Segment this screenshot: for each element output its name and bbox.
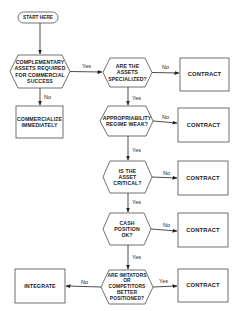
edge-label-q6-no: No <box>81 279 88 285</box>
q4-label: IS THE ASSET CRITICAL? <box>110 161 145 193</box>
edge-label-q2-yes: Yes <box>132 95 141 101</box>
edge-label-q5-no: No <box>163 222 170 228</box>
q3-label: APPROPRIABILITY REGIME WEAK? <box>105 106 149 136</box>
arrow-q3-no <box>153 121 177 123</box>
contract-label-4: CONTRACT <box>178 213 228 247</box>
arrow-q6-yes <box>153 286 177 287</box>
edge-label-q3-yes: Yes <box>132 147 141 153</box>
integrate-label: INTEGRATE <box>15 269 65 303</box>
edge-label-q6-yes: Yes <box>159 278 168 284</box>
contract-label-1: CONTRACT <box>180 58 229 91</box>
q5-label: CASH POSITION OK? <box>112 213 142 245</box>
edge-label-q3-no: No <box>162 114 169 120</box>
flowchart-canvas <box>0 0 237 311</box>
q1-label: COMPLEMENTARY ASSETS REQUIRED FOR COMMER… <box>14 55 66 88</box>
start-label: START HERE <box>18 12 58 23</box>
edge-label-q1-yes: Yes <box>82 63 91 69</box>
edge-label-q4-no: No <box>163 170 170 176</box>
arrow-q1-yes <box>70 72 102 73</box>
edge-label-q2-no: No <box>162 64 169 70</box>
contract-label-3: CONTRACT <box>178 161 228 195</box>
edge-label-q1-no: No <box>44 94 51 100</box>
arrow-q4-no <box>152 177 177 178</box>
arrow-q6-no <box>66 286 101 287</box>
edge-label-q5-yes: Yes <box>132 254 141 260</box>
arrow-q2-no <box>152 73 179 74</box>
commercialize-label: COMMERCIALIZE IMMEDIATELY <box>18 106 61 138</box>
contract-label-5: CONTRACT <box>178 269 228 302</box>
arrow-q5-no <box>151 229 177 231</box>
edge-label-q4-yes: Yes <box>132 199 141 205</box>
q2-label: ARE THE ASSETS SPECIALIZED? <box>108 58 147 87</box>
q6-label: ARE IMITATORS OR COMPETITORS BETTER POSI… <box>105 270 149 304</box>
contract-label-2: CONTRACT <box>178 108 229 142</box>
